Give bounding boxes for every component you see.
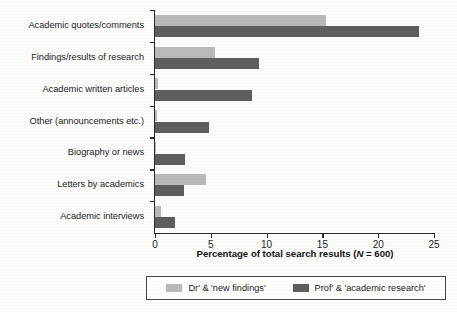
category-label: Biography or news [0, 147, 144, 158]
bar-series1 [155, 206, 161, 217]
y-axis-tick [150, 169, 155, 170]
category-label: Other (announcements etc.) [0, 116, 144, 127]
category-label: Findings/results of research [0, 52, 144, 63]
bar-chart-figure: Academic quotes/commentsFindings/results… [0, 0, 457, 312]
chart-legend: Dr' & 'new findings'Prof' & 'academic re… [146, 276, 446, 300]
bar-series1 [155, 47, 215, 58]
x-axis-tick [211, 233, 212, 238]
legend-label: Prof' & 'academic research' [315, 283, 426, 293]
bar-group [155, 206, 434, 229]
sample-size-symbol: N [356, 248, 363, 259]
y-axis-tick [150, 137, 155, 138]
category-label: Academic quotes/comments [0, 20, 144, 31]
x-axis-line [154, 233, 434, 234]
x-axis-tick [155, 233, 156, 238]
y-axis-tick [150, 10, 155, 11]
bar-group [155, 110, 434, 133]
y-axis-tick [150, 42, 155, 43]
bar-group [155, 47, 434, 70]
legend-swatch-icon [166, 284, 182, 292]
bar-series1 [155, 78, 158, 89]
bar-series2 [155, 185, 184, 196]
x-axis-tick [322, 233, 323, 238]
category-label: Academic written articles [0, 84, 144, 95]
category-label: Letters by academics [0, 179, 144, 190]
bar-series2 [155, 217, 175, 228]
bar-series1 [155, 142, 156, 153]
y-axis-tick [150, 106, 155, 107]
bar-series1 [155, 174, 206, 185]
category-label: Academic interviews [0, 211, 144, 222]
plot-area [155, 10, 434, 233]
legend-label: Dr' & 'new findings' [188, 283, 265, 293]
x-axis-title: Percentage of total search results (N = … [155, 248, 435, 259]
bar-group [155, 142, 434, 165]
x-axis-tick [378, 233, 379, 238]
bar-series2 [155, 58, 259, 69]
y-axis-tick [150, 74, 155, 75]
bar-series2 [155, 26, 419, 37]
bar-series1 [155, 110, 157, 121]
bar-group [155, 15, 434, 38]
y-axis-tick [150, 201, 155, 202]
bar-series2 [155, 90, 252, 101]
x-axis-tick [267, 233, 268, 238]
category-axis-labels: Academic quotes/commentsFindings/results… [0, 10, 150, 233]
legend-entry: Dr' & 'new findings' [166, 283, 265, 293]
bar-series2 [155, 154, 185, 165]
legend-entry: Prof' & 'academic research' [293, 283, 426, 293]
bar-series2 [155, 122, 209, 133]
bar-series1 [155, 15, 326, 26]
bar-group [155, 174, 434, 197]
legend-swatch-icon [293, 284, 309, 292]
x-axis-tick [434, 233, 435, 238]
bar-group [155, 78, 434, 101]
